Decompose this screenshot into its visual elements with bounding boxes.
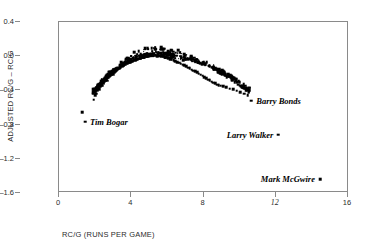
data-point <box>182 59 185 62</box>
data-point <box>176 55 178 57</box>
annotation-label: Tim Bogar <box>90 117 128 127</box>
data-point <box>164 56 167 59</box>
data-point <box>119 66 122 69</box>
y-tick-mark <box>15 89 20 90</box>
data-point <box>127 57 129 59</box>
data-point <box>145 55 147 57</box>
annotation-label: Larry Walker <box>227 130 274 140</box>
x-tick-label: 4 <box>128 198 132 207</box>
data-point <box>81 111 84 114</box>
data-point <box>167 51 170 54</box>
plot-frame-right <box>347 21 348 192</box>
data-point <box>94 90 97 93</box>
data-point <box>100 83 103 86</box>
data-point <box>181 57 183 59</box>
data-point <box>319 178 322 181</box>
data-point <box>115 69 117 71</box>
data-point <box>236 81 239 84</box>
x-tick-mark <box>275 192 276 197</box>
data-point <box>178 58 180 60</box>
data-point <box>152 54 155 57</box>
data-point <box>161 53 164 56</box>
data-point <box>100 80 103 83</box>
y-tick-mark <box>15 192 20 193</box>
data-point <box>172 56 175 59</box>
data-point <box>250 99 253 102</box>
x-tick-label: 16 <box>343 198 351 207</box>
data-point <box>135 55 138 58</box>
y-tick-label: –1.2 <box>0 153 14 162</box>
data-point <box>214 66 217 69</box>
data-point <box>236 89 239 92</box>
data-point <box>139 53 142 56</box>
data-point <box>147 53 149 55</box>
data-point <box>192 59 194 61</box>
data-point <box>175 57 177 59</box>
data-point <box>162 49 165 52</box>
data-point <box>84 121 87 124</box>
annotation-label: Barry Bonds <box>256 96 301 106</box>
data-point <box>228 87 231 90</box>
data-point <box>133 51 136 54</box>
data-point <box>232 77 235 80</box>
data-point <box>220 72 223 75</box>
data-point <box>197 61 200 64</box>
data-point <box>190 59 192 61</box>
x-tick-mark <box>203 192 204 197</box>
data-point <box>157 52 160 55</box>
data-point <box>143 49 145 51</box>
data-point <box>172 50 175 53</box>
data-point <box>243 87 246 90</box>
data-point <box>144 53 146 55</box>
data-point <box>104 77 107 80</box>
y-tick-mark <box>15 55 20 56</box>
chart-root: 0.40.0–0.4–0.8–1.2–1.6 0481216 Tim Bogar… <box>0 0 368 249</box>
data-point <box>123 61 126 64</box>
data-point <box>95 88 98 91</box>
x-tick-mark <box>347 192 348 197</box>
data-point <box>231 79 234 82</box>
y-tick-mark <box>15 124 20 125</box>
data-point <box>179 51 181 53</box>
y-tick-label: –1.6 <box>0 188 14 197</box>
data-point <box>130 55 132 57</box>
x-tick-label: 0 <box>56 198 60 207</box>
y-tick-mark <box>15 21 20 22</box>
data-point <box>146 47 149 50</box>
data-point <box>143 51 145 53</box>
y-axis-title: ADJUSTED RC/G – RC/G <box>6 50 15 142</box>
data-point <box>127 61 129 63</box>
data-point <box>246 89 249 92</box>
data-point <box>277 133 280 136</box>
plot-frame-top <box>58 21 348 22</box>
data-point <box>154 48 157 51</box>
data-point <box>228 74 231 77</box>
annotation-label: Mark McGwire <box>261 174 315 184</box>
data-point <box>161 52 163 54</box>
x-axis-title: RC/G (RUNS PER GAME) <box>62 230 155 239</box>
data-point <box>167 54 170 57</box>
data-point <box>135 59 137 61</box>
y-tick-label: 0.4 <box>4 17 14 26</box>
data-point <box>111 70 114 73</box>
data-point <box>110 73 113 76</box>
data-point <box>243 92 246 95</box>
data-point <box>131 58 133 60</box>
data-point <box>232 88 235 91</box>
y-tick-mark <box>15 158 20 159</box>
data-point <box>160 46 163 49</box>
data-point <box>163 53 166 56</box>
data-point <box>223 73 226 76</box>
x-tick-mark <box>130 192 131 197</box>
data-point <box>246 94 249 97</box>
data-point <box>241 84 244 87</box>
data-point <box>149 52 152 55</box>
x-tick-label: 12 <box>271 198 279 207</box>
data-point <box>237 83 240 86</box>
plot-area <box>58 21 348 192</box>
data-point <box>208 65 211 68</box>
data-point <box>183 56 186 59</box>
x-tick-label: 8 <box>200 198 204 207</box>
data-point <box>92 98 95 101</box>
x-tick-mark <box>58 192 59 197</box>
